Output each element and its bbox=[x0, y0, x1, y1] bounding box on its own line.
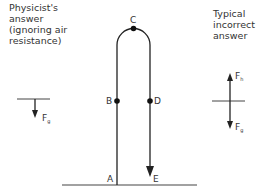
incorrect-hit-force-arrow-icon bbox=[227, 73, 233, 81]
physicist-gravity-arrow-icon bbox=[32, 110, 38, 118]
incorrect-gravity-arrow-icon bbox=[227, 121, 233, 129]
incorrect-down-force-label: Fg bbox=[235, 122, 243, 134]
point-c bbox=[131, 26, 137, 32]
trajectory-diagram: C B D A E Fg Fh Fg bbox=[0, 0, 260, 192]
label-a: A bbox=[107, 174, 114, 184]
label-c: C bbox=[130, 15, 136, 25]
incorrect-up-force-label: Fh bbox=[235, 71, 243, 82]
point-d bbox=[147, 98, 153, 104]
point-b bbox=[114, 98, 120, 104]
label-d: D bbox=[154, 96, 161, 106]
trajectory-path bbox=[117, 29, 150, 185]
label-b: B bbox=[106, 96, 112, 106]
physicist-force-label: Fg bbox=[42, 113, 50, 125]
label-e: E bbox=[153, 174, 159, 184]
